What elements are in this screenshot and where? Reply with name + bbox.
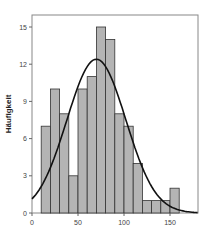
- histogram-bar: [115, 114, 124, 213]
- y-tick-label: 6: [23, 135, 27, 142]
- x-tick-label: 50: [74, 219, 82, 226]
- y-tick-label: 9: [23, 98, 27, 105]
- y-tick-label: 15: [19, 24, 27, 31]
- histogram-bar: [142, 201, 151, 213]
- histogram-bar: [78, 89, 87, 213]
- x-tick-label: 150: [164, 219, 176, 226]
- y-tick-label: 3: [23, 172, 27, 179]
- histogram-bar: [96, 27, 105, 213]
- histogram-bar: [152, 201, 161, 213]
- y-tick-label: 0: [23, 210, 27, 217]
- y-axis-title: Häufigkeit: [4, 94, 13, 133]
- y-tick-label: 12: [19, 61, 27, 68]
- histogram-bar: [87, 77, 96, 213]
- x-axis-ticks: 050100150: [30, 213, 176, 226]
- histogram-bar: [50, 89, 59, 213]
- histogram-bar: [106, 39, 115, 213]
- histogram-bar: [133, 163, 142, 213]
- x-tick-label: 100: [118, 219, 130, 226]
- histogram-bar: [69, 176, 78, 213]
- y-axis-ticks: 03691215: [19, 24, 32, 217]
- histogram-chart: 03691215 050100150 Häufigkeit: [0, 0, 209, 238]
- x-tick-label: 0: [30, 219, 34, 226]
